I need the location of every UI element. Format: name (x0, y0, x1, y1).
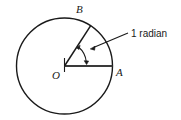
radian-diagram-figure: B A O 1 radian (0, 0, 181, 120)
point-label-a: A (115, 66, 123, 78)
angle-arrowhead-toward-oa (84, 61, 88, 65)
diagram-canvas: B A O 1 radian (0, 0, 181, 120)
callout-arrowhead (90, 46, 95, 50)
radius-segment-ob (65, 26, 91, 66)
point-label-b: B (76, 3, 83, 15)
point-label-o: O (52, 69, 60, 81)
angle-arc (79, 47, 87, 62)
callout-leader-line (94, 33, 129, 48)
angle-callout-label: 1 radian (131, 28, 167, 39)
